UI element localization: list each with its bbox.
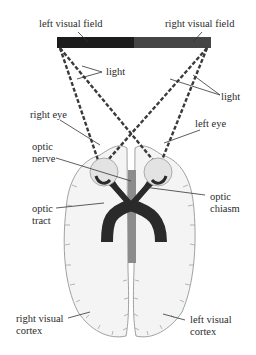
midline-structure — [128, 170, 136, 263]
right-visual-field — [134, 37, 211, 48]
label-left-visual-cortex-1: left visual — [190, 314, 232, 325]
leader-left-eye — [164, 130, 200, 143]
visual-pathway-diagram: left visual field right visual field lig… — [0, 0, 256, 355]
label-optic-nerve-2: nerve — [32, 153, 56, 164]
label-light-right: light — [221, 91, 240, 102]
leader-right-eye — [60, 120, 100, 145]
light-ray — [162, 48, 207, 160]
label-right-eye: right eye — [30, 109, 67, 120]
label-right-visual-cortex-1: right visual — [16, 313, 64, 324]
label-optic-tract-1: optic — [32, 203, 53, 214]
label-right-visual-field: right visual field — [165, 18, 235, 29]
label-right-visual-cortex-2: cortex — [16, 325, 43, 336]
label-left-visual-cortex-2: cortex — [190, 326, 217, 337]
label-optic-tract-2: tract — [32, 215, 51, 226]
visual-field-bar — [57, 37, 211, 48]
light-ray — [108, 48, 207, 160]
left-visual-field — [57, 37, 134, 48]
label-light-left: light — [106, 66, 125, 77]
light-rays — [60, 48, 207, 160]
light-ray — [60, 48, 153, 160]
label-left-eye: left eye — [195, 118, 227, 129]
label-optic-chiasm-2: chiasm — [210, 203, 240, 214]
label-left-visual-field: left visual field — [39, 18, 103, 29]
light-ray — [60, 48, 98, 160]
label-optic-chiasm-1: optic — [210, 191, 231, 202]
label-optic-nerve-1: optic — [32, 141, 53, 152]
brain — [64, 146, 195, 337]
